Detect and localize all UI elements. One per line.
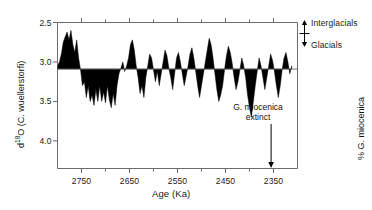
axis-left-title: d18O (C. wuellerstorfi) bbox=[14, 61, 26, 148]
tick-label: 2350 bbox=[254, 176, 294, 186]
tick-label: 2.5 bbox=[28, 18, 52, 28]
tick-label: 2650 bbox=[110, 176, 150, 186]
tick-label: 2750 bbox=[62, 176, 102, 186]
axis-x-title: Age (Ka) bbox=[152, 188, 190, 199]
axis-left-title-post: O (C. wuellerstorfi) bbox=[16, 61, 26, 136]
tick-label: 4.0 bbox=[28, 136, 52, 146]
annotation-arrows bbox=[268, 20, 309, 168]
tick-label: 2450 bbox=[206, 176, 246, 186]
annotation-extinction-line2: extinct bbox=[221, 113, 295, 123]
annotation-glacials-label: Glacials bbox=[311, 40, 342, 50]
tick-label: 2550 bbox=[158, 176, 198, 186]
figure-container: d18O (C. wuellerstorfi) % G. miocenica A… bbox=[0, 0, 372, 210]
tick-label: 3.5 bbox=[28, 96, 52, 106]
axis-left-title-sup: 18 bbox=[14, 136, 21, 143]
annotation-interglacials-label: Interglacials bbox=[311, 18, 358, 28]
annotation-extinction: G. miocenica extinct bbox=[221, 103, 295, 122]
tick-label: 3.0 bbox=[28, 57, 52, 67]
axis-left-title-pre: d bbox=[16, 143, 26, 148]
axis-right-title: % G. miocenica bbox=[356, 97, 366, 160]
